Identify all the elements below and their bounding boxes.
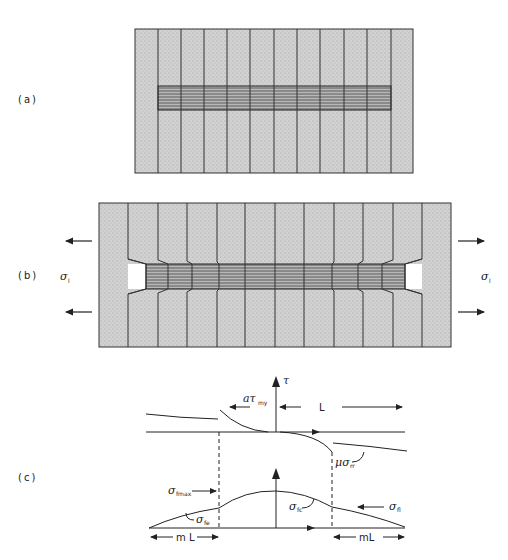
fl-label-sub: fl (397, 506, 401, 513)
panel-c-plot (146, 376, 407, 537)
panel-label-c: (c) (18, 472, 37, 483)
panel-label-a: (a) (18, 94, 38, 105)
friction-label-sub: rr (350, 462, 355, 469)
stress-label-right-sub: l (489, 277, 491, 284)
shear-curve-left (220, 410, 268, 432)
fc-label: σ (289, 500, 297, 513)
ml-label-right: mL (359, 532, 375, 543)
fmax-label: σ (168, 484, 176, 497)
shear-curve-right (280, 432, 332, 452)
debond-gap-right (404, 264, 422, 289)
shear-curve-right-flat (333, 443, 407, 451)
debond-gap-left (128, 264, 147, 289)
shear-curve-left-flat (146, 414, 218, 419)
fe-label: σ (196, 513, 204, 526)
fe-label-sub: fe (204, 519, 210, 526)
ml-label-left: m L (176, 532, 195, 543)
fiber-matrix-diagram: (a) (b) (0, 0, 508, 560)
tau-axis-label: τ (283, 374, 290, 387)
stress-label-left: σ (60, 270, 68, 283)
panel-a-composite (135, 29, 413, 173)
shear-stress-label: aτ (243, 392, 257, 405)
shear-stress-label-sub: my (258, 399, 268, 407)
fc-label-sub: fc (297, 506, 302, 513)
friction-label: μσ (335, 456, 350, 469)
fl-label: σ (389, 500, 397, 513)
panel-b-composite (99, 203, 451, 347)
stress-arrows-left (66, 241, 92, 312)
panel-label-b: (b) (18, 270, 38, 281)
length-label: L (319, 402, 325, 413)
stress-label-right: σ (481, 270, 489, 283)
stress-label-left-sub: l (68, 277, 70, 284)
fmax-label-sub: fmax (176, 490, 192, 497)
